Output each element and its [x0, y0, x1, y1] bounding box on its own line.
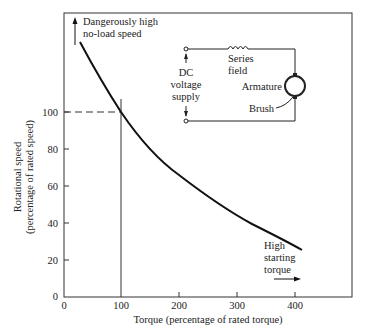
annotation-line2: no-load speed — [83, 28, 142, 39]
up-arrow-icon — [73, 17, 78, 24]
circuit-labels: DC voltage supply Series field Armature … — [171, 53, 283, 114]
terminal-bottom-icon — [184, 119, 188, 123]
terminal-top-icon — [184, 47, 188, 51]
y-tick-80: 80 — [48, 144, 59, 155]
x-tick-300: 300 — [229, 300, 245, 311]
series-field-label-2: field — [228, 65, 248, 76]
supply-label-supply: supply — [172, 91, 201, 102]
supply-label-dc: DC — [179, 67, 194, 78]
y-axis-label-line1: Rotational speed — [12, 141, 23, 212]
annotation-torque: torque — [264, 264, 291, 275]
right-arrow-icon — [294, 277, 301, 282]
y-tick-40: 40 — [48, 218, 59, 229]
armature-icon — [285, 76, 305, 96]
y-axis-ticks — [64, 112, 69, 260]
x-tick-400: 400 — [287, 300, 303, 311]
y-axis-label-line2: (percentage of rated speed) — [24, 120, 36, 234]
armature-label: Armature — [242, 81, 283, 92]
series-field-label-1: Series — [228, 53, 254, 64]
x-tick-200: 200 — [171, 300, 187, 311]
no-load-speed-annotation: Dangerously high no-load speed — [73, 16, 159, 45]
supply-up-arrow-icon — [184, 53, 188, 59]
brush-top-icon — [293, 73, 297, 76]
series-field-coil-icon — [228, 47, 248, 50]
annotation-high: High — [264, 240, 286, 251]
supply-down-arrow-icon — [184, 111, 188, 117]
y-axis-label: Rotational speed (percentage of rated sp… — [12, 120, 36, 234]
x-tick-100: 100 — [113, 300, 129, 311]
x-axis-label: Torque (percentage of rated torque) — [133, 314, 283, 326]
x-axis-ticks — [179, 292, 295, 297]
x-tick-0: 0 — [61, 300, 66, 311]
y-tick-100: 100 — [42, 107, 58, 118]
annotation-line1: Dangerously high — [83, 16, 159, 27]
speed-torque-chart: 0 20 40 60 80 100 0 100 200 300 400 Torq… — [0, 0, 365, 334]
y-tick-20: 20 — [48, 255, 59, 266]
supply-label-voltage: voltage — [171, 79, 202, 90]
y-tick-60: 60 — [48, 181, 59, 192]
brush-leader-line — [276, 97, 293, 108]
y-tick-0: 0 — [53, 291, 58, 302]
brush-bottom-icon — [293, 96, 297, 99]
brush-label: Brush — [249, 103, 275, 114]
y-tick-labels: 0 20 40 60 80 100 — [42, 107, 58, 302]
plot-frame — [64, 13, 352, 297]
annotation-starting: starting — [264, 252, 296, 263]
x-tick-labels: 0 100 200 300 400 — [61, 300, 303, 311]
